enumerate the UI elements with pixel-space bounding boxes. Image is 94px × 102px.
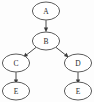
node-e-left[interactable]: E bbox=[2, 82, 29, 100]
node-d[interactable]: D bbox=[64, 54, 91, 72]
node-a[interactable]: A bbox=[32, 2, 59, 20]
edge-b-to-c-line bbox=[26, 47, 36, 55]
node-c-label: C bbox=[13, 59, 18, 68]
node-b-label: B bbox=[43, 37, 48, 46]
node-e-left-label: E bbox=[14, 87, 19, 96]
node-a-label: A bbox=[43, 7, 49, 16]
edge-a-to-b-arrowhead bbox=[44, 28, 48, 33]
node-b[interactable]: B bbox=[32, 32, 59, 50]
edge-b-to-d bbox=[56, 47, 69, 57]
edge-a-to-b bbox=[44, 20, 48, 32]
node-e-right-label: E bbox=[76, 87, 81, 96]
graph-diagram: A B C D E E bbox=[0, 0, 94, 102]
node-e-right[interactable]: E bbox=[64, 82, 91, 100]
node-d-label: D bbox=[75, 59, 81, 68]
edge-b-to-d-line bbox=[56, 47, 66, 55]
graph-canvas: A B C D E E bbox=[0, 0, 94, 102]
node-c[interactable]: C bbox=[2, 54, 29, 72]
